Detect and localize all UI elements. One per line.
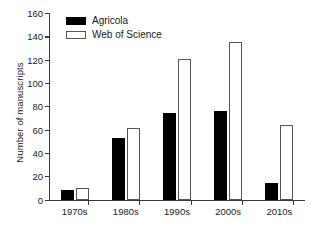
x-tick: [88, 201, 89, 205]
x-axis-label-1980s: 1980s: [98, 206, 154, 217]
bar-1980s-web-of-science: [127, 128, 140, 199]
legend-item-web-of-science: Web of Science: [66, 28, 162, 41]
x-tick: [242, 201, 243, 205]
y-tick-label: 20: [1, 171, 43, 182]
y-tick: [45, 83, 49, 84]
bar-2000s-agricola: [214, 111, 227, 200]
legend-label-agricola: Agricola: [92, 15, 128, 26]
y-tick-label: 120: [1, 54, 43, 65]
x-axis-label-1970s: 1970s: [47, 206, 103, 217]
bar-2000s-web-of-science: [229, 42, 242, 199]
y-tick-label: 80: [1, 101, 43, 112]
bar-1990s-web-of-science: [178, 59, 191, 200]
legend-label-web-of-science: Web of Science: [92, 29, 162, 40]
x-tick: [293, 201, 294, 205]
legend-swatch-web-of-science: [66, 31, 86, 39]
bar-2010s-web-of-science: [280, 125, 293, 200]
y-tick: [45, 13, 49, 14]
bar-chart-figure: Number of manuscripts 020406080100120140…: [0, 0, 320, 230]
chart-legend: Agricola Web of Science: [66, 14, 162, 42]
legend-item-agricola: Agricola: [66, 14, 162, 27]
bar-1990s-agricola: [163, 113, 176, 199]
y-tick: [45, 60, 49, 61]
y-tick-label: 0: [1, 194, 43, 205]
x-axis-label-1990s: 1990s: [149, 206, 205, 217]
x-axis-label-2000s: 2000s: [200, 206, 256, 217]
legend-swatch-agricola: [66, 17, 86, 25]
y-tick: [45, 200, 49, 201]
bar-1970s-web-of-science: [76, 188, 89, 200]
y-tick-label: 40: [1, 147, 43, 158]
y-tick: [45, 176, 49, 177]
y-axis-line: [49, 13, 50, 201]
y-tick: [45, 36, 49, 37]
y-tick-label: 160: [1, 8, 43, 19]
y-tick: [45, 153, 49, 154]
y-tick-label: 140: [1, 31, 43, 42]
y-tick: [45, 130, 49, 131]
x-tick: [191, 201, 192, 205]
y-tick-label: 100: [1, 77, 43, 88]
bar-1970s-agricola: [61, 190, 74, 199]
bar-2010s-agricola: [265, 183, 278, 199]
x-axis-label-2010s: 2010s: [251, 206, 307, 217]
y-tick: [45, 106, 49, 107]
bar-1980s-agricola: [112, 138, 125, 200]
x-tick: [139, 201, 140, 205]
y-tick-label: 60: [1, 124, 43, 135]
